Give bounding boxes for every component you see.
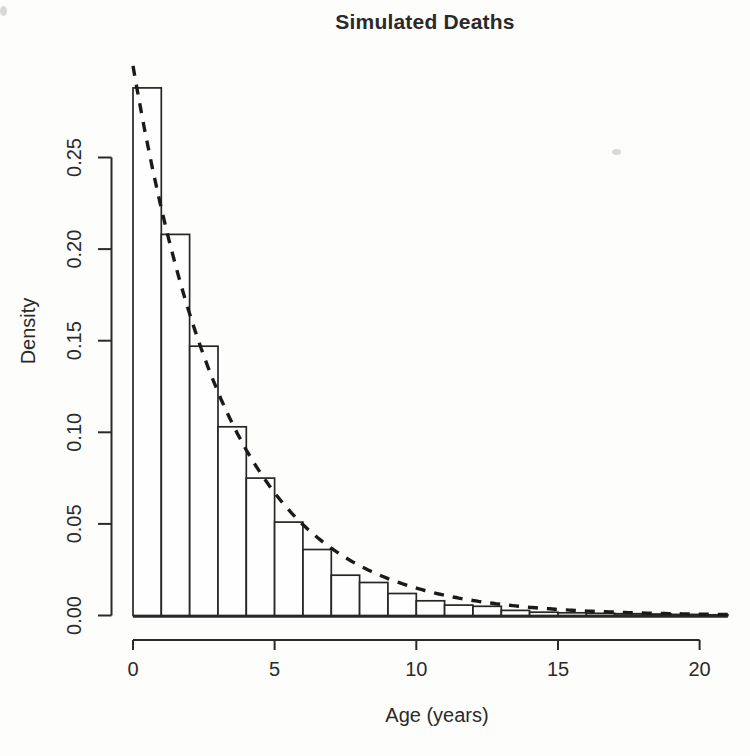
histogram-bar <box>388 594 416 616</box>
scanned-plot-page: Simulated Deaths Density Age (years) 0.0… <box>0 0 750 756</box>
scan-artifacts <box>0 6 621 155</box>
histogram-bars <box>133 88 728 616</box>
histogram-bar <box>303 550 331 616</box>
y-tick-label: 0.15 <box>63 321 85 360</box>
x-axis-title: Age (years) <box>385 704 488 726</box>
histogram-bar <box>530 612 558 615</box>
histogram-bar <box>331 575 359 615</box>
histogram-bar <box>161 234 189 615</box>
histogram-bar <box>473 606 501 615</box>
histogram-bar <box>218 427 246 616</box>
x-tick-label: 15 <box>547 658 569 680</box>
x-tick-label: 5 <box>269 658 280 680</box>
scan-artifact-speck <box>612 149 621 155</box>
histogram-bar <box>133 88 161 616</box>
y-tick-label: 0.05 <box>63 504 85 543</box>
histogram-bar <box>360 583 388 616</box>
histogram-bar <box>445 605 473 615</box>
histogram-bar <box>190 346 218 615</box>
histogram-plot: Simulated Deaths Density Age (years) 0.0… <box>0 0 750 756</box>
histogram-bar <box>246 478 274 615</box>
y-tick-label: 0.10 <box>63 413 85 452</box>
y-tick-label: 0.00 <box>63 596 85 635</box>
y-tick-label: 0.25 <box>63 138 85 177</box>
x-axis: 05101520 <box>127 640 710 680</box>
histogram-bar <box>558 613 586 616</box>
histogram-bar <box>416 601 444 616</box>
y-tick-label: 0.20 <box>63 230 85 269</box>
x-tick-label: 20 <box>688 658 710 680</box>
y-axis-title: Density <box>17 298 39 365</box>
x-tick-label: 10 <box>405 658 427 680</box>
x-tick-label: 0 <box>127 658 138 680</box>
y-axis: 0.000.050.100.150.200.25 <box>63 138 111 635</box>
histogram-bar <box>275 522 303 615</box>
chart-title: Simulated Deaths <box>335 10 514 33</box>
histogram-bar <box>501 610 529 615</box>
scan-artifact-speck <box>0 6 7 16</box>
